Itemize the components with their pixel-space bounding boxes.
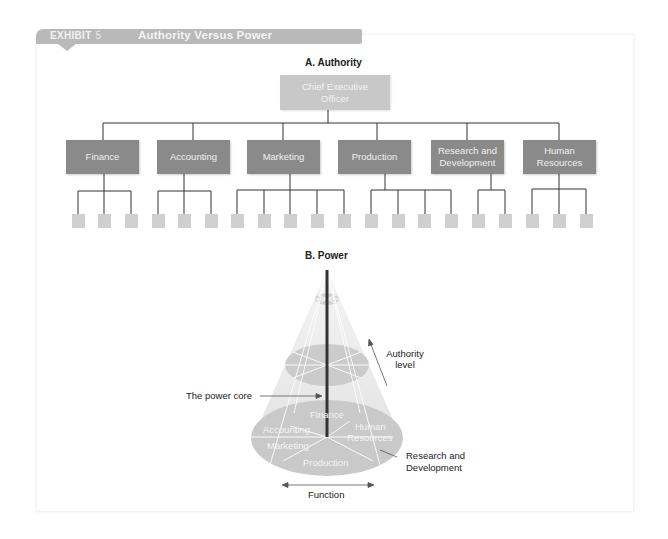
rd-line1: Research and xyxy=(406,450,465,462)
base-label-finance: Finance xyxy=(310,409,344,420)
power-core-label: The power core xyxy=(186,390,252,401)
base-label-resources: Resources xyxy=(347,432,392,443)
research-development-label: Research andDevelopment xyxy=(406,450,465,474)
base-label-production: Production xyxy=(303,457,348,468)
base-label-human: Human xyxy=(355,421,386,432)
authority-level-line2: level xyxy=(382,359,428,370)
function-label: Function xyxy=(308,489,344,500)
authority-level-label: Authoritylevel xyxy=(382,348,428,370)
rd-line2: Development xyxy=(406,462,465,474)
base-label-accounting: Accounting xyxy=(263,424,310,435)
authority-level-line1: Authority xyxy=(382,348,428,359)
base-label-marketing: Marketing xyxy=(267,440,309,451)
